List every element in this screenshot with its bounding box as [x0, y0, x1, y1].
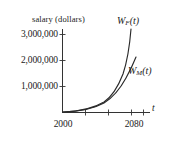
- x-tick-label-2000: 2000: [45, 120, 81, 130]
- curve-label-wf-argument: (t): [130, 15, 139, 26]
- y-axis-title: salary (dollars): [32, 15, 85, 24]
- x-axis-variable-label: t: [152, 104, 155, 114]
- curve-label-wf: WF(t): [117, 16, 139, 27]
- salary-growth-chart: salary (dollars) 3,000,000 2,000,000 1,0…: [0, 0, 180, 145]
- y-tick-label-2000000: 2,000,000: [2, 56, 58, 66]
- chart-plot-area: [0, 0, 180, 145]
- y-tick-label-3000000: 3,000,000: [2, 30, 58, 40]
- curve-wf: [63, 29, 131, 112]
- y-tick-label-1000000: 1,000,000: [2, 82, 58, 92]
- curve-label-wm-argument: (t): [142, 65, 151, 76]
- curve-label-wm: WM(t): [128, 66, 152, 77]
- x-tick-label-2080: 2080: [116, 120, 152, 130]
